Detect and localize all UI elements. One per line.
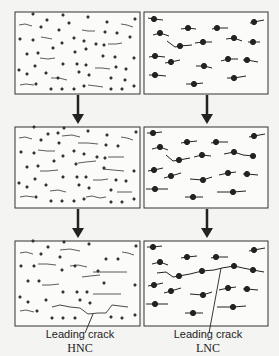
panel-lnc-2	[144, 127, 268, 208]
caption-hnc-leading-crack: Leading crack	[30, 328, 130, 340]
caption-lnc: LNC	[158, 341, 258, 356]
panel-hnc-2	[15, 127, 140, 208]
panel-lnc-1	[144, 12, 268, 94]
panel-hnc-3	[15, 241, 140, 326]
caption-lnc-leading-crack: Leading crack	[158, 328, 258, 340]
caption-hnc: HNC	[30, 341, 130, 356]
diagram-canvas	[0, 0, 279, 356]
